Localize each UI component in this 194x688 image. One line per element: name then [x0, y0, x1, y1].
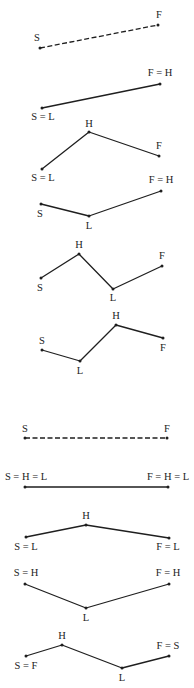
point-s: [41, 349, 44, 352]
path-segment-l-f: [122, 656, 169, 668]
point-s: [24, 437, 27, 440]
point-label-h: H: [112, 310, 120, 321]
point-label-s: S: [39, 335, 45, 346]
point-l: [121, 667, 124, 670]
point-f: [167, 486, 170, 489]
path-segment-h-l: [62, 645, 122, 668]
point-s: [40, 203, 43, 206]
point-label-f: F: [159, 250, 165, 261]
point-label-h: H: [82, 510, 90, 521]
path-segment-h-f: [89, 132, 159, 156]
path-segment-s-f: [40, 25, 158, 48]
point-s: [24, 486, 27, 489]
path-segment-h-f: [86, 525, 169, 538]
point-label-f: F = H: [148, 67, 173, 78]
point-l: [79, 360, 82, 363]
point-label-f: F: [156, 140, 162, 151]
point-label-s: S: [37, 282, 43, 293]
diagram-d1: SF: [34, 9, 162, 50]
point-h: [61, 644, 64, 647]
path-segment-l-f: [89, 191, 161, 216]
point-label-s: S = L: [31, 111, 54, 122]
point-label-f: F: [164, 423, 170, 434]
point-s: [24, 583, 27, 586]
diagram-d6: SLHF: [39, 310, 166, 376]
path-segment-s-l: [25, 584, 86, 608]
point-f: [168, 583, 171, 586]
diagram-d3: S = LHF: [31, 118, 162, 183]
point-label-l: L: [119, 672, 125, 683]
diagram-d7: SF: [22, 423, 170, 440]
path-segment-h-l: [79, 254, 113, 289]
point-label-s: S: [34, 32, 40, 43]
diagram-d10: S = HLF = H: [14, 567, 181, 623]
point-label-h: H: [75, 239, 83, 250]
point-label-l: L: [77, 365, 83, 376]
point-f: [157, 24, 160, 27]
point-h: [85, 524, 88, 527]
path-segment-h-f: [116, 325, 163, 338]
path-segment-l-f: [86, 584, 169, 608]
point-label-l: L: [83, 612, 89, 623]
point-s: [41, 168, 44, 171]
point-f: [160, 190, 163, 193]
point-f: [166, 437, 169, 440]
point-s: [41, 107, 44, 110]
path-segment-s-h: [42, 132, 89, 169]
point-label-h: H: [85, 118, 93, 129]
point-s: [25, 536, 28, 539]
point-s: [25, 655, 28, 658]
point-h: [88, 131, 91, 134]
path-segment-s-f: [42, 84, 160, 108]
diagram-d11: S = FHLF = S: [15, 630, 180, 683]
point-label-s: S = H = L: [5, 471, 47, 482]
point-h: [115, 324, 118, 327]
path-segment-s-h: [26, 645, 62, 656]
point-f: [159, 83, 162, 86]
point-label-s: S = L: [31, 172, 54, 183]
path-segment-l-h: [80, 325, 116, 361]
point-label-s: S: [22, 423, 28, 434]
point-label-s: S = F: [15, 660, 38, 671]
point-s: [39, 47, 42, 50]
point-l: [85, 607, 88, 610]
point-label-f: F = S: [157, 640, 180, 651]
point-label-s: S: [37, 208, 43, 219]
point-f: [162, 337, 165, 340]
point-label-l: L: [110, 292, 116, 303]
point-label-f: F: [160, 342, 166, 353]
point-label-f: F = H = L: [147, 471, 189, 482]
path-segment-s-h: [41, 254, 79, 278]
diagram-d8: S = H = LF = H = L: [5, 471, 189, 489]
point-f: [158, 155, 161, 158]
point-h: [78, 253, 81, 256]
point-label-s: S = L: [14, 541, 37, 552]
path-segment-s-l: [42, 350, 80, 361]
point-s: [40, 277, 43, 280]
point-f: [161, 265, 164, 268]
point-label-f: F = L: [156, 541, 179, 552]
diagram-d5: SHLF: [37, 239, 165, 303]
point-l: [88, 215, 91, 218]
path-segment-s-l: [41, 204, 89, 216]
point-label-f: F = H: [149, 174, 174, 185]
diagram-d2: S = LF = H: [31, 67, 172, 122]
path-segment-l-f: [113, 266, 162, 289]
point-label-f: F = H: [156, 567, 181, 578]
point-f: [168, 655, 171, 658]
point-l: [112, 288, 115, 291]
point-f: [168, 537, 171, 540]
diagram-d4: SLF = H: [37, 174, 174, 231]
price-path-figure: SFS = LF = HS = LHFSLF = HSHLFSLHFSFS = …: [0, 0, 194, 688]
point-label-f: F: [156, 9, 162, 20]
point-label-l: L: [86, 220, 92, 231]
point-label-s: S = H: [14, 567, 39, 578]
diagram-d9: S = LHF = L: [14, 510, 179, 552]
path-segment-s-h: [26, 525, 86, 537]
point-label-h: H: [58, 630, 66, 641]
